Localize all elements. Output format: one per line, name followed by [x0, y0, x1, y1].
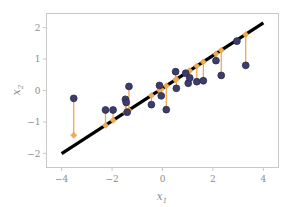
data-point — [70, 95, 77, 102]
x-axis-title-sub: 1 — [163, 197, 167, 205]
data-point — [148, 101, 155, 108]
x-tick-label: −2 — [105, 174, 118, 184]
data-point — [124, 109, 131, 116]
y-tick-label: −1 — [27, 117, 40, 127]
data-point — [218, 72, 225, 79]
data-point — [123, 99, 130, 106]
data-point — [200, 77, 207, 84]
data-point — [158, 92, 165, 99]
data-point — [102, 107, 109, 114]
data-point — [163, 106, 170, 113]
y-tick-label: 1 — [35, 54, 41, 64]
y-tick-label: 2 — [35, 23, 41, 33]
x-tick-label: 4 — [261, 174, 267, 184]
data-point — [233, 38, 240, 45]
data-point — [172, 68, 179, 75]
y-tick-label: 0 — [35, 86, 41, 96]
data-point — [110, 107, 117, 114]
x-tick-label: −4 — [55, 174, 69, 184]
scatter-plot-with-residuals: −4−2024 −2−1012 x1 x2 — [0, 0, 301, 207]
y-tick-label: −2 — [27, 149, 40, 159]
data-point — [126, 83, 133, 90]
figure-container: −4−2024 −2−1012 x1 x2 — [0, 0, 301, 207]
x-tick-label: 2 — [210, 174, 216, 184]
data-point — [213, 57, 220, 64]
data-point — [242, 62, 249, 69]
x-tick-label: 0 — [160, 174, 166, 184]
data-point — [193, 78, 200, 85]
data-point — [173, 85, 180, 92]
y-axis-title-sub: 2 — [17, 84, 25, 90]
data-point — [186, 75, 193, 82]
data-point — [156, 82, 163, 89]
